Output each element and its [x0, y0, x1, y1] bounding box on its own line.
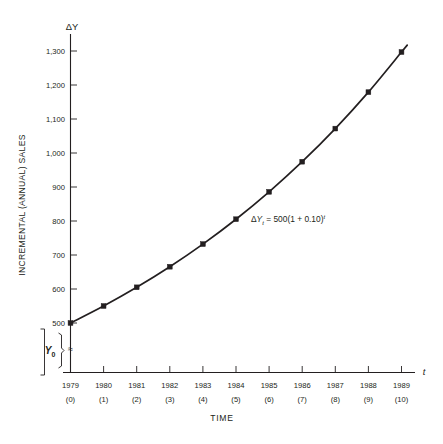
x-period-label-4: (4) — [198, 395, 208, 404]
y-axis-ticks — [71, 51, 78, 323]
axis-break-group: ≈ Y0 — [41, 329, 74, 375]
y-tick-label-1000: 1,000 — [46, 149, 65, 158]
x-period-label-10: (10) — [395, 395, 409, 404]
x-period-label-9: (9) — [364, 395, 374, 404]
y-tick-label-600: 600 — [52, 285, 65, 294]
data-series-line — [71, 45, 408, 323]
x-period-label-1: (1) — [99, 395, 109, 404]
y-tick-label-1100: 1,100 — [46, 115, 65, 124]
x-tick-label-1983: 1983 — [194, 381, 211, 390]
equation-exponent: t — [323, 214, 325, 220]
x-tick-label-1984: 1984 — [228, 381, 245, 390]
x-tick-label-1982: 1982 — [161, 381, 178, 390]
data-point-1988 — [366, 90, 371, 95]
x-period-label-2: (2) — [132, 395, 142, 404]
data-point-1982 — [167, 264, 172, 269]
x-axis-symbol: t — [423, 366, 426, 377]
x-axis-period-labels: (0) (1) (2) (3) (4) (5) (6) (7) (8) (9) … — [66, 395, 409, 404]
y0-label: Y0 — [45, 345, 56, 358]
y-axis-symbol: ΔY — [66, 21, 79, 32]
data-point-1983 — [201, 242, 206, 247]
x-period-label-5: (5) — [231, 395, 241, 404]
y-tick-label-1200: 1,200 — [46, 81, 65, 90]
x-tick-label-1989: 1989 — [393, 381, 410, 390]
data-point-1989 — [399, 50, 404, 55]
chart-figure: ΔY 1,300 1,200 1,100 1,000 900 800 700 6… — [0, 0, 443, 444]
equation-body: = 500(1 + 0.10) — [264, 214, 324, 224]
x-period-label-8: (8) — [331, 395, 341, 404]
y-axis-title: INCREMENTAL (ANNUAL) SALES — [17, 134, 27, 276]
growth-equation-annotation: ΔYt = 500(1 + 0.10)t — [251, 214, 325, 226]
x-tick-label-1981: 1981 — [128, 381, 145, 390]
data-point-1981 — [134, 285, 139, 290]
y-tick-label-500: 500 — [52, 319, 65, 328]
x-period-label-3: (3) — [165, 395, 175, 404]
x-tick-label-1980: 1980 — [95, 381, 112, 390]
y-tick-label-900: 900 — [52, 183, 65, 192]
x-tick-label-1987: 1987 — [327, 381, 344, 390]
data-point-1985 — [267, 189, 272, 194]
x-period-label-0: (0) — [66, 395, 76, 404]
data-point-1980 — [101, 304, 106, 309]
x-period-label-6: (6) — [264, 395, 274, 404]
x-tick-label-1979: 1979 — [62, 381, 79, 390]
x-axis-ticks — [71, 366, 402, 373]
x-axis-tick-labels: 1979 1980 1981 1982 1983 1984 1985 1986 … — [62, 381, 410, 390]
exponential-growth-chart: ΔY 1,300 1,200 1,100 1,000 900 800 700 6… — [0, 0, 443, 444]
y0-inner-brace — [59, 333, 65, 368]
growth-equation-text: ΔYt = 500(1 + 0.10)t — [251, 214, 325, 226]
x-tick-label-1988: 1988 — [360, 381, 377, 390]
y0-label-subscript: 0 — [51, 351, 55, 358]
axis-break-symbol: ≈ — [68, 344, 73, 354]
data-point-1987 — [333, 126, 338, 131]
x-axis-title: TIME — [210, 413, 234, 423]
x-tick-label-1985: 1985 — [261, 381, 278, 390]
data-point-markers — [68, 50, 404, 326]
y-tick-label-800: 800 — [52, 217, 65, 226]
data-point-1986 — [300, 159, 305, 164]
x-period-label-7: (7) — [298, 395, 308, 404]
data-point-1979 — [68, 321, 73, 326]
data-point-1984 — [234, 217, 239, 222]
x-tick-label-1986: 1986 — [294, 381, 311, 390]
y-tick-label-1300: 1,300 — [46, 47, 65, 56]
y-axis-tick-labels: 1,300 1,200 1,100 1,000 900 800 700 600 … — [46, 47, 65, 328]
y-tick-label-700: 700 — [52, 251, 65, 260]
